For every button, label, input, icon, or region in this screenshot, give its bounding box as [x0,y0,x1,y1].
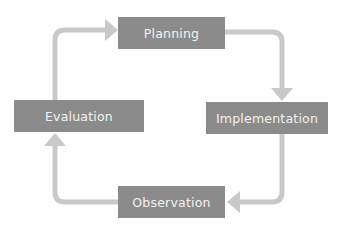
arrow-implementation-to-observation [227,134,282,213]
arrowhead-down-icon [271,88,293,101]
stage-label: Implementation [216,111,318,126]
stage-label: Planning [144,26,199,41]
arrowhead-right-icon [105,19,118,41]
arrowhead-left-icon [227,191,240,213]
stage-label: Evaluation [45,109,113,124]
cycle-diagram: Planning Implementation Observation Eval… [0,0,338,227]
arrow-evaluation-to-planning [55,19,118,100]
stage-observation: Observation [118,186,225,218]
arrow-observation-to-evaluation [44,133,118,202]
arrow-planning-to-implementation [225,32,293,101]
stage-label: Observation [132,195,210,210]
stage-implementation: Implementation [206,102,328,134]
stage-evaluation: Evaluation [14,100,144,132]
stage-planning: Planning [118,17,225,49]
arrowhead-up-icon [44,133,66,146]
